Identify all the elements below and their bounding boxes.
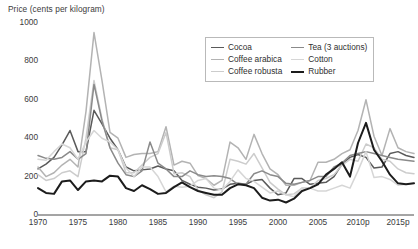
legend-item-cotton[interactable]: Cotton (291, 54, 367, 65)
legend-item-tea-3-auctions[interactable]: Tea (3 auctions) (291, 42, 367, 53)
chart-legend: CocoaTea (3 auctions)Coffee arabicaCotto… (205, 37, 374, 82)
legend-swatch-icon (291, 47, 304, 48)
legend-label: Cotton (308, 54, 332, 65)
legend-item-rubber[interactable]: Rubber (291, 66, 367, 77)
price-line-chart: Price (cents per kilogram) 0200400600800… (0, 0, 418, 249)
legend-swatch-icon (211, 47, 224, 48)
legend-item-cocoa[interactable]: Cocoa (211, 42, 282, 53)
x-tick-2010p: 2010p (346, 218, 369, 226)
x-tick-1975: 1975 (69, 218, 87, 226)
x-tick-2005: 2005 (309, 218, 327, 226)
x-tick-2015p: 2015p (386, 218, 409, 226)
legend-label: Tea (3 auctions) (308, 42, 367, 53)
legend-label: Cocoa (228, 42, 252, 53)
legend-swatch-icon (291, 59, 304, 60)
x-tick-1990: 1990 (189, 218, 207, 226)
legend-swatch-icon (211, 59, 224, 60)
x-tick-1985: 1985 (149, 218, 167, 226)
legend-label: Rubber (308, 66, 335, 77)
x-tick-2000: 2000 (269, 218, 287, 226)
x-tick-1970: 1970 (29, 218, 47, 226)
legend-item-coffee-robusta[interactable]: Coffee robusta (211, 66, 282, 77)
legend-swatch-icon (291, 71, 304, 73)
legend-label: Coffee arabica (228, 54, 282, 65)
legend-swatch-icon (211, 71, 224, 72)
legend-item-coffee-arabica[interactable]: Coffee arabica (211, 54, 282, 65)
legend-label: Coffee robusta (228, 66, 282, 77)
x-tick-1995: 1995 (229, 218, 247, 226)
x-tick-1980: 1980 (109, 218, 127, 226)
